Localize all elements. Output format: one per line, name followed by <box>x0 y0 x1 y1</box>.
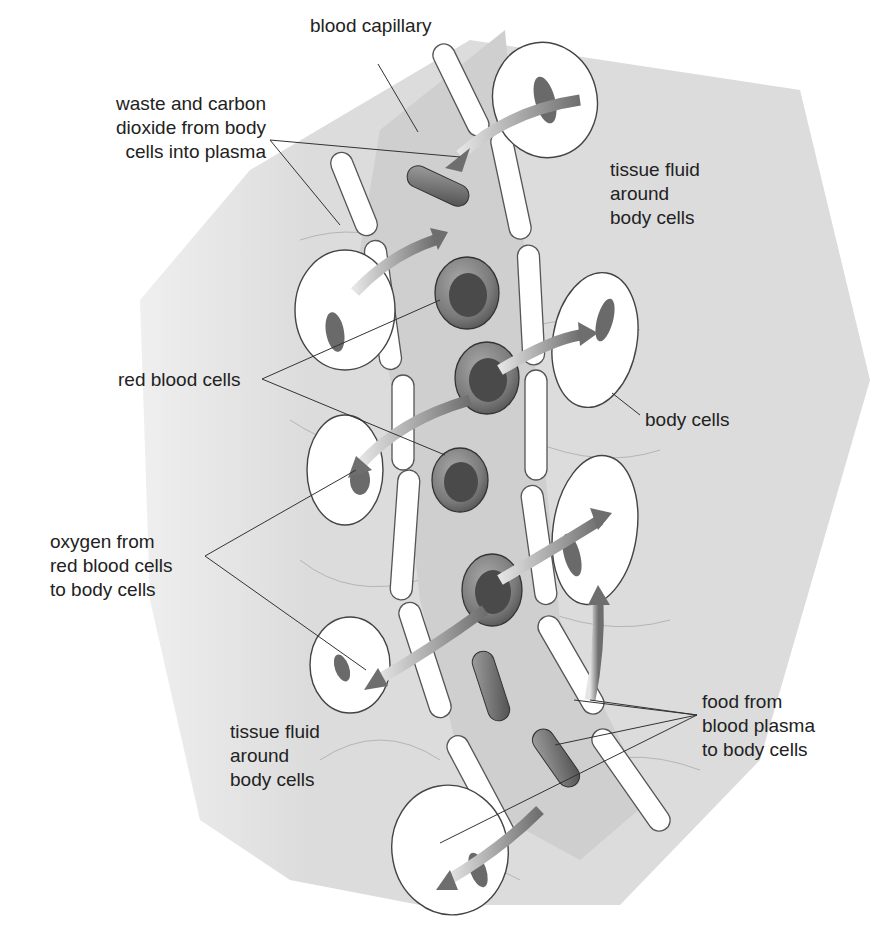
red-blood-cell <box>432 448 488 512</box>
label-line: dioxide from body <box>100 116 266 140</box>
label-line: oxygen from <box>50 530 173 554</box>
label-line: red blood cells <box>50 554 173 578</box>
label-line: to body cells <box>702 738 815 762</box>
red-blood-cell <box>435 257 499 329</box>
label-tissue-fluid-top: tissue fluid around body cells <box>610 158 700 230</box>
label-line: tissue fluid <box>230 720 320 744</box>
label-food: food from blood plasma to body cells <box>702 690 815 762</box>
label-line: waste and carbon <box>100 92 266 116</box>
label-waste-co2: waste and carbon dioxide from body cells… <box>100 92 266 164</box>
label-tissue-fluid-bottom: tissue fluid around body cells <box>230 720 320 792</box>
label-line: blood plasma <box>702 714 815 738</box>
label-line: body cells <box>610 206 700 230</box>
label-line: food from <box>702 690 815 714</box>
label-line: tissue fluid <box>610 158 700 182</box>
label-line: blood capillary <box>310 14 431 38</box>
label-line: red blood cells <box>118 368 241 392</box>
label-line: body cells <box>230 768 320 792</box>
label-red-blood-cells: red blood cells <box>118 368 241 392</box>
label-oxygen: oxygen from red blood cells to body cell… <box>50 530 173 602</box>
body-cell-left-lower <box>310 617 390 713</box>
label-line: cells into plasma <box>100 140 266 164</box>
label-line: around <box>230 744 320 768</box>
label-body-cells: body cells <box>645 408 730 432</box>
label-line: around <box>610 182 700 206</box>
label-blood-capillary: blood capillary <box>310 14 431 38</box>
label-line: to body cells <box>50 578 173 602</box>
label-line: body cells <box>645 408 730 432</box>
